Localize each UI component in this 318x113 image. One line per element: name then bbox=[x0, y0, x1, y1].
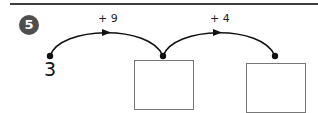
number-line-exercise: 5 + 9 + 4 3 bbox=[0, 0, 318, 113]
jump-label-2: + 4 bbox=[210, 13, 230, 25]
arrowhead-icon bbox=[213, 29, 222, 36]
answer-box-2[interactable] bbox=[246, 63, 306, 113]
jump-label-1: + 9 bbox=[98, 13, 118, 25]
start-value: 3 bbox=[44, 60, 56, 79]
jump-arc-2 bbox=[163, 33, 275, 56]
end-point-dot bbox=[272, 53, 278, 59]
middle-point-dot bbox=[160, 53, 166, 59]
arrowhead-icon bbox=[102, 29, 111, 36]
answer-box-1[interactable] bbox=[134, 60, 194, 110]
jump-arc-1 bbox=[50, 33, 163, 56]
